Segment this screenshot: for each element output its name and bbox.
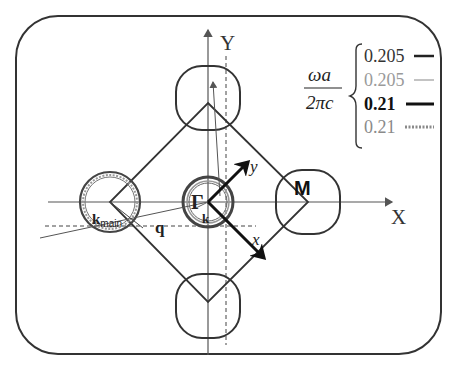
- q-label: q: [155, 218, 165, 237]
- frequency-legend: ωa 2πc 0.205 0.205 0.21 0.21: [304, 44, 434, 148]
- q-vector: [40, 202, 208, 238]
- m-point-label: M: [294, 177, 311, 199]
- legend-entry-2-value: 0.205: [364, 70, 405, 90]
- legend-denominator: 2πc: [306, 92, 334, 113]
- gamma-label: Γ: [191, 191, 204, 213]
- y-axis-label: Y: [220, 31, 235, 55]
- k-main-label: kmain: [92, 211, 122, 229]
- legend-entry-4-value: 0.21: [364, 117, 396, 137]
- legend-numerator: ωa: [308, 64, 331, 85]
- k-label: k: [202, 211, 210, 226]
- legend-entry-1-value: 0.205: [364, 46, 405, 66]
- x-axis-label: X: [391, 205, 406, 229]
- legend-brace: [350, 44, 362, 148]
- outer-frame: [16, 16, 441, 354]
- brillouin-zone-diagram: X Y y x Γ M k q kmain ωa 2πc 0.205 0.205…: [0, 0, 457, 367]
- rotated-x-label: x: [251, 230, 260, 249]
- rotated-y-label: y: [248, 157, 258, 176]
- legend-entry-3-value: 0.21: [364, 94, 396, 114]
